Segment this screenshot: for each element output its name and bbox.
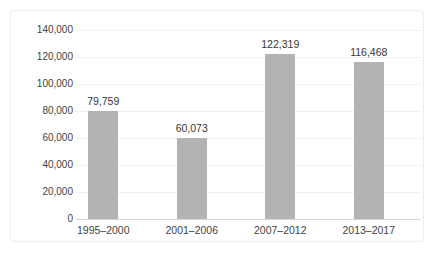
y-axis-tick-label: 80,000 xyxy=(13,105,73,117)
bar-chart: 020,00040,00060,00080,000100,000120,0001… xyxy=(0,0,437,256)
y-axis-tick-label: 40,000 xyxy=(13,159,73,171)
y-axis-tick-label: 60,000 xyxy=(13,132,73,144)
bar-value-label: 116,468 xyxy=(334,46,404,59)
bar-value-label: 122,319 xyxy=(245,38,315,51)
bar xyxy=(354,62,384,219)
bar xyxy=(88,111,118,219)
gridline xyxy=(76,30,421,31)
x-axis-tick-label: 2007–2012 xyxy=(240,224,320,237)
bar-value-label: 60,073 xyxy=(157,122,227,135)
y-axis-tick-label: 100,000 xyxy=(13,78,73,90)
y-axis-tick-label: 140,000 xyxy=(13,24,73,36)
x-axis-line xyxy=(76,219,421,220)
bar xyxy=(265,54,295,219)
y-axis-tick-label: 20,000 xyxy=(13,186,73,198)
x-axis-tick-label: 1995–2000 xyxy=(63,224,143,237)
y-axis-tick-label: 120,000 xyxy=(13,51,73,63)
x-axis-tick-label: 2013–2017 xyxy=(329,224,409,237)
bar-value-label: 79,759 xyxy=(68,95,138,108)
x-axis-tick-label: 2001–2006 xyxy=(152,224,232,237)
bar xyxy=(177,138,207,219)
